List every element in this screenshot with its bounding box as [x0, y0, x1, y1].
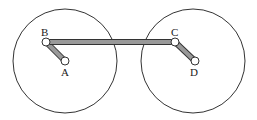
linkage-diagram: B A C D	[0, 0, 257, 120]
label-a: A	[61, 66, 69, 78]
joint-c	[171, 38, 179, 46]
joint-b	[42, 38, 50, 46]
joint-d	[191, 57, 199, 65]
label-b: B	[41, 26, 48, 38]
label-d: D	[190, 66, 198, 78]
joint-a	[61, 57, 69, 65]
label-c: C	[171, 26, 178, 38]
